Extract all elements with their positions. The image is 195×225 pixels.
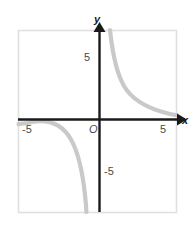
hyperbola-plot [0, 0, 195, 225]
x-axis-tick-label-5: 5 [160, 124, 166, 135]
y-axis-tick-label-5: 5 [84, 52, 90, 63]
y-axis-tick-label-negative-5: -5 [104, 166, 114, 177]
origin-label: O [89, 124, 98, 135]
x-axis-tick-label-negative-5: -5 [22, 124, 32, 135]
coordinate-plane-figure: -5 5 5 -5 x y O [0, 0, 195, 225]
x-axis-label: x [182, 115, 188, 126]
y-axis-label: y [94, 14, 100, 25]
